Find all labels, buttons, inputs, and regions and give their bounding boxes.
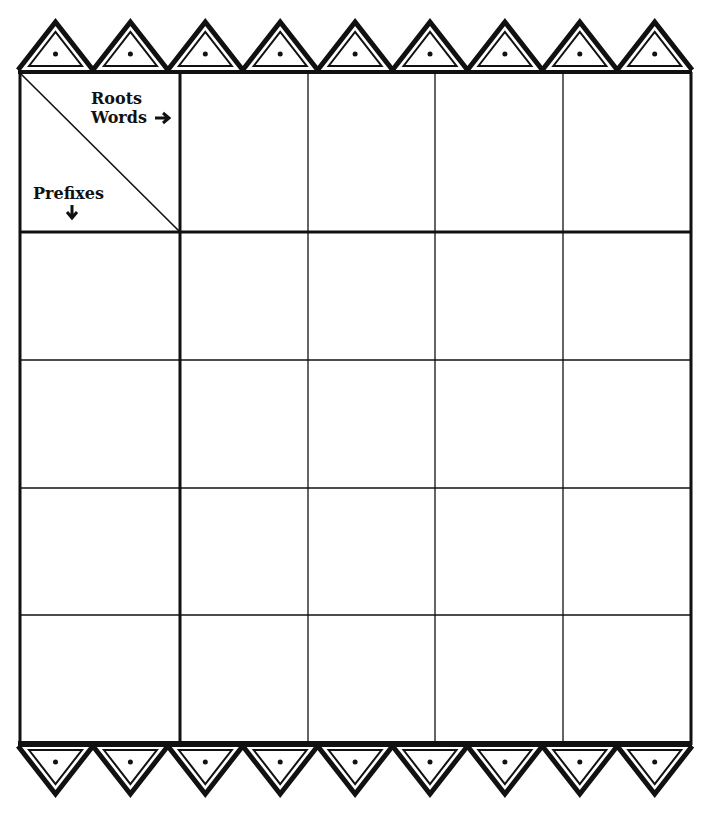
- triangle-icon: [93, 746, 168, 794]
- triangle-icon: [318, 22, 393, 70]
- triangle-icon: [168, 22, 243, 70]
- triangle-icon: [18, 746, 93, 794]
- triangle-icon: [617, 746, 692, 794]
- prefix-cell[interactable]: [22, 617, 179, 740]
- word-cell[interactable]: [310, 617, 434, 740]
- triangle-icon: [542, 22, 617, 70]
- arrow-right-icon: [154, 111, 172, 125]
- word-cell[interactable]: [437, 617, 562, 740]
- triangle-icon: [93, 22, 168, 70]
- root-cell[interactable]: [182, 75, 307, 231]
- triangle-icon: [18, 22, 93, 70]
- prefixes-label: Prefixes: [33, 184, 104, 203]
- root-cell[interactable]: [437, 75, 562, 231]
- top-triangle-border: [18, 22, 692, 70]
- root-cell[interactable]: [310, 75, 434, 231]
- roots-label: Roots: [91, 89, 142, 108]
- bottom-border: [18, 741, 692, 747]
- word-cell[interactable]: [565, 617, 689, 740]
- word-cell[interactable]: [565, 234, 689, 359]
- triangle-icon: [617, 22, 692, 70]
- word-cell[interactable]: [437, 234, 562, 359]
- triangle-icon: [243, 746, 318, 794]
- words-label: Words: [91, 108, 147, 127]
- root-cell[interactable]: [565, 75, 689, 231]
- bottom-triangle-border: [18, 746, 692, 794]
- triangle-icon: [393, 22, 468, 70]
- word-cell[interactable]: [182, 234, 307, 359]
- triangle-icon: [467, 746, 542, 794]
- prefix-cell[interactable]: [22, 234, 179, 359]
- prefix-cell[interactable]: [22, 362, 179, 487]
- word-cell[interactable]: [310, 490, 434, 614]
- prefix-cell[interactable]: [22, 490, 179, 614]
- triangle-icon: [467, 22, 542, 70]
- word-cell[interactable]: [182, 617, 307, 740]
- triangle-icon: [318, 746, 393, 794]
- triangle-icon: [542, 746, 617, 794]
- word-cell[interactable]: [437, 362, 562, 487]
- words-text: Words: [91, 108, 147, 127]
- triangle-icon: [168, 746, 243, 794]
- word-cell[interactable]: [310, 234, 434, 359]
- arrow-down-icon: [65, 204, 79, 220]
- word-cell[interactable]: [565, 490, 689, 614]
- word-cell[interactable]: [310, 362, 434, 487]
- top-border: [18, 70, 692, 74]
- word-cell[interactable]: [182, 490, 307, 614]
- triangle-icon: [243, 22, 318, 70]
- word-cell[interactable]: [437, 490, 562, 614]
- triangle-icon: [393, 746, 468, 794]
- word-cell[interactable]: [565, 362, 689, 487]
- word-cell[interactable]: [182, 362, 307, 487]
